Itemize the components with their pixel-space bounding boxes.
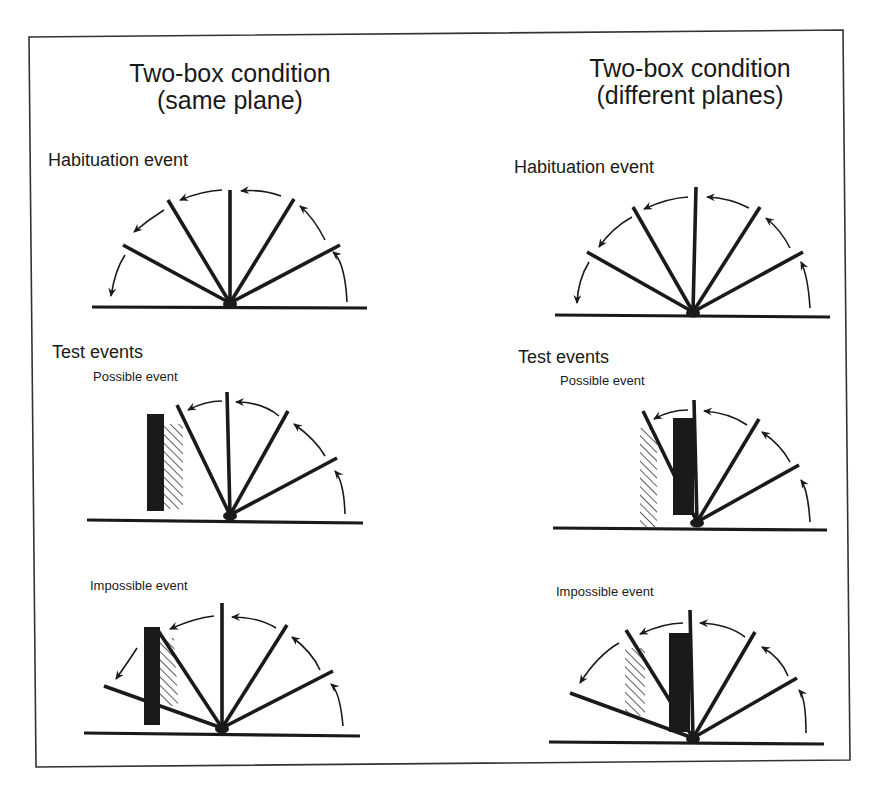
- rotation-arrow-icon: [292, 637, 320, 670]
- rotation-arrow-icon: [704, 411, 747, 425]
- rotation-arrow-icon: [801, 480, 810, 522]
- rotation-arrow-icon: [801, 262, 810, 308]
- rotation-arrow-icon: [188, 401, 222, 410]
- pivot-hub: [215, 725, 229, 734]
- screen-position: [693, 252, 803, 312]
- pivot-hub: [690, 519, 704, 528]
- panels-group: [84, 187, 830, 744]
- rotation-arrow-icon: [599, 217, 632, 247]
- screen-position: [177, 405, 230, 515]
- panel-left-habituation: [92, 190, 367, 309]
- screen-position: [694, 400, 697, 522]
- rotation-arrow-icon: [766, 218, 790, 248]
- right-test-events-label: Test events: [518, 347, 609, 367]
- rotation-arrow-icon: [116, 648, 137, 679]
- panel-right-habituation: [555, 187, 830, 318]
- left-impossible-event-label: Impossible event: [90, 578, 188, 593]
- left-title-line2: (same plane): [105, 87, 355, 114]
- ground-line: [87, 520, 363, 523]
- pivot-hub: [223, 300, 237, 309]
- two-box-condition-figure: Two-box condition (same plane) Habituati…: [0, 0, 874, 790]
- pivot-hub: [686, 735, 700, 744]
- ground-line: [549, 742, 824, 744]
- right-title-line2: (different planes): [555, 82, 825, 109]
- screen-position: [693, 187, 696, 312]
- rotation-arrow-icon: [799, 690, 806, 733]
- rotation-arrow-icon: [134, 210, 164, 232]
- box-shadow-hatch: [640, 428, 657, 527]
- rotation-arrow-icon: [300, 206, 325, 240]
- panel-left-possible: [87, 392, 363, 523]
- screen-position: [690, 610, 693, 738]
- rotation-arrow-icon: [331, 684, 343, 726]
- box-black: [144, 627, 160, 725]
- rotation-arrow-icon: [170, 616, 214, 629]
- rotation-arrow-icon: [577, 262, 589, 303]
- rotation-arrow-icon: [644, 197, 688, 209]
- pivot-hub: [223, 512, 237, 521]
- rotation-arrow-icon: [640, 623, 683, 634]
- rotation-arrow-icon: [700, 623, 745, 637]
- rotation-arrow-icon: [333, 252, 347, 302]
- panel-right-possible: [553, 400, 827, 530]
- right-title-line1: Two-box condition: [555, 55, 825, 82]
- rotation-arrow-icon: [111, 255, 125, 296]
- rotation-arrow-icon: [294, 424, 325, 456]
- box-shadow-hatch: [164, 424, 183, 509]
- right-possible-event-label: Possible event: [560, 373, 645, 388]
- screen-position: [693, 207, 760, 312]
- rotation-arrow-icon: [762, 432, 790, 462]
- right-habituation-label: Habituation event: [514, 157, 654, 177]
- box-black: [673, 418, 694, 515]
- pivot-hub: [686, 309, 700, 318]
- rotation-arrow-icon: [335, 471, 345, 514]
- diagram-canvas: [0, 0, 874, 790]
- left-habituation-label: Habituation event: [48, 150, 188, 170]
- box-black: [147, 414, 164, 511]
- panel-left-impossible: [84, 603, 360, 736]
- rotation-arrow-icon: [241, 191, 281, 196]
- right-impossible-event-label: Impossible event: [556, 584, 654, 599]
- rotation-arrow-icon: [762, 647, 788, 676]
- rotation-arrow-icon: [232, 617, 276, 628]
- rotation-arrow-icon: [707, 197, 749, 208]
- rotation-arrow-icon: [180, 190, 222, 200]
- screen-position: [227, 392, 230, 515]
- ground-line: [553, 528, 827, 530]
- left-title-line1: Two-box condition: [105, 60, 355, 87]
- rotation-arrow-icon: [580, 643, 619, 683]
- panel-right-impossible: [549, 610, 824, 744]
- left-test-events-label: Test events: [52, 342, 143, 362]
- rotation-arrow-icon: [236, 402, 279, 416]
- left-possible-event-label: Possible event: [93, 369, 178, 384]
- rotation-arrow-icon: [654, 410, 688, 419]
